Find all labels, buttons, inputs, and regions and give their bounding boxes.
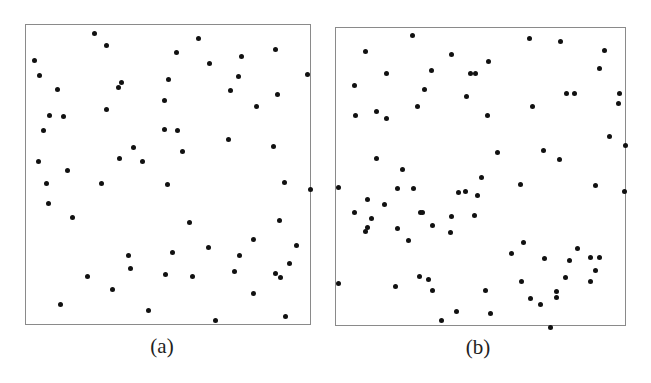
scatter-point — [588, 279, 593, 284]
scatter-point — [251, 291, 256, 296]
scatter-point — [558, 39, 563, 44]
scatter-point — [41, 128, 46, 133]
scatter-point — [622, 189, 627, 194]
scatter-point — [61, 114, 66, 119]
scatter-point — [486, 59, 491, 64]
scatter-point — [119, 80, 124, 85]
scatter-point — [131, 145, 136, 150]
scatter-point — [162, 98, 167, 103]
scatter-point — [395, 186, 400, 191]
scatter-point — [37, 73, 42, 78]
scatter-point — [575, 246, 580, 251]
scatter-point — [597, 66, 602, 71]
scatter-point — [430, 223, 435, 228]
scatter-point — [55, 87, 60, 92]
scatter-point — [473, 71, 478, 76]
scatter-point — [420, 210, 425, 215]
scatter-point — [116, 85, 121, 90]
scatter-point — [196, 36, 201, 41]
scatter-point — [530, 104, 535, 109]
scatter-point — [429, 68, 434, 73]
scatter-point — [395, 226, 400, 231]
scatter-point — [393, 284, 398, 289]
scatter-point — [99, 181, 104, 186]
scatter-point — [468, 71, 473, 76]
scatter-point — [110, 287, 115, 292]
scatter-point — [92, 31, 97, 36]
scatter-point — [228, 88, 233, 93]
scatter-point — [65, 168, 70, 173]
scatter-point — [236, 74, 241, 79]
scatter-point — [527, 36, 532, 41]
scatter-point — [32, 58, 37, 63]
scatter-point — [104, 43, 109, 48]
scatter-point — [190, 274, 195, 279]
scatter-point — [415, 104, 420, 109]
scatter-point — [180, 149, 185, 154]
scatter-point — [36, 159, 41, 164]
scatter-point — [162, 127, 167, 132]
scatter-point — [352, 210, 357, 215]
scatter-point — [485, 113, 490, 118]
scatter-point — [365, 197, 370, 202]
scatter-point — [251, 237, 256, 242]
scatter-point — [277, 218, 282, 223]
scatter-point — [254, 104, 259, 109]
scatter-point — [422, 87, 427, 92]
scatter-point — [305, 72, 310, 77]
scatter-point — [226, 137, 231, 142]
scatter-point — [400, 167, 405, 172]
scatter-point — [488, 311, 493, 316]
scatter-point — [548, 325, 553, 330]
scatter-point — [554, 289, 559, 294]
scatter-point — [282, 180, 287, 185]
scatter-point — [273, 271, 278, 276]
scatter-point — [472, 213, 477, 218]
scatter-point — [564, 91, 569, 96]
scatter-point — [163, 272, 168, 277]
scatter-point — [541, 148, 546, 153]
scatter-point — [287, 261, 292, 266]
scatter-point — [117, 156, 122, 161]
scatter-point — [384, 116, 389, 121]
scatter-point — [140, 159, 145, 164]
scatter-panel-b — [335, 27, 626, 326]
scatter-point — [528, 296, 533, 301]
scatter-point — [572, 91, 577, 96]
scatter-point — [518, 182, 523, 187]
scatter-point — [369, 216, 374, 221]
caption-b: (b) — [466, 335, 491, 360]
scatter-point — [417, 274, 422, 279]
scatter-point — [483, 288, 488, 293]
scatter-point — [430, 288, 435, 293]
scatter-point — [353, 113, 358, 118]
scatter-point — [207, 61, 212, 66]
scatter-point — [126, 253, 131, 258]
scatter-point — [449, 214, 454, 219]
scatter-point — [374, 109, 379, 114]
scatter-point — [283, 314, 288, 319]
scatter-point — [464, 94, 469, 99]
scatter-point — [308, 187, 313, 192]
scatter-point — [607, 134, 612, 139]
scatter-point — [454, 309, 459, 314]
scatter-point — [617, 91, 622, 96]
scatter-point — [542, 256, 547, 261]
scatter-point — [384, 71, 389, 76]
scatter-point — [411, 186, 416, 191]
scatter-point — [597, 255, 602, 260]
scatter-point — [616, 101, 621, 106]
scatter-point — [519, 279, 524, 284]
scatter-point — [382, 202, 387, 207]
scatter-point — [593, 268, 598, 273]
scatter-point — [557, 157, 562, 162]
scatter-point — [495, 150, 500, 155]
scatter-point — [448, 230, 453, 235]
scatter-point — [44, 181, 49, 186]
scatter-point — [70, 215, 75, 220]
scatter-point — [363, 49, 368, 54]
scatter-point — [213, 318, 218, 323]
scatter-point — [449, 52, 454, 57]
scatter-point — [166, 77, 171, 82]
scatter-point — [563, 275, 568, 280]
